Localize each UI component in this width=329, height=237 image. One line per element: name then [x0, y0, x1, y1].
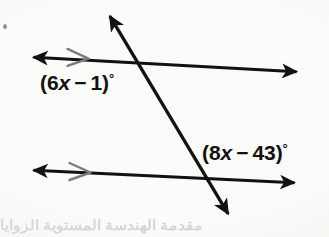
scan-speck-artifact — [3, 24, 7, 29]
lower-operator: − — [232, 141, 252, 164]
lower-constant: 43 — [252, 141, 275, 164]
diagram-canvas — [0, 0, 329, 237]
bottom-ghost-text-artifact: مقدمة الهندسة المستوية الزوايا — [0, 216, 329, 234]
transversal-line — [110, 16, 228, 214]
upper-open-paren: ( — [40, 71, 47, 94]
upper-close-paren: ) — [102, 71, 109, 94]
upper-constant: 1 — [90, 71, 102, 94]
lower-open-paren: ( — [202, 141, 209, 164]
parallel-tick-upper-icon — [68, 49, 89, 66]
upper-coefficient: 6 — [47, 71, 59, 94]
angle-label-lower: (8x − 43)° — [202, 142, 288, 163]
upper-variable: x — [59, 71, 71, 94]
angle-label-upper: (6x − 1)° — [40, 72, 114, 93]
lower-parallel-line — [33, 170, 294, 182]
upper-operator: − — [70, 71, 90, 94]
lower-degree-symbol: ° — [283, 141, 288, 156]
lower-close-paren: ) — [276, 141, 283, 164]
upper-degree-symbol: ° — [109, 71, 114, 86]
geometry-figure: (6x − 1)° (8x − 43)° مقدمة الهندسة المست… — [0, 0, 329, 237]
lower-coefficient: 8 — [209, 141, 221, 164]
lower-variable: x — [221, 141, 233, 164]
